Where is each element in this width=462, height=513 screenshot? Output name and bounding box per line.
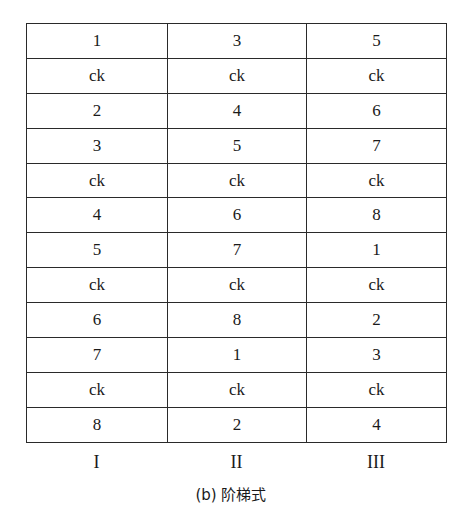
table-cell: 7 [168,233,307,268]
table-row: 246 [27,93,447,128]
table-cell: 1 [27,24,168,59]
table-cell: 4 [27,198,168,233]
figure-caption: (b) 阶梯式 [0,483,462,504]
table-cell: 5 [27,233,168,268]
table-cell: 8 [307,198,447,233]
table-cell: 5 [168,128,307,163]
schedule-table-body: 135ckckck246357ckckck468571ckckck682713c… [27,24,447,443]
table-cell: 7 [307,128,447,163]
schedule-table: 135ckckck246357ckckck468571ckckck682713c… [26,23,447,443]
table-row: 824 [27,407,447,442]
column-label-1: I [26,452,167,473]
table-cell: ck [307,58,447,93]
table-cell: ck [307,268,447,303]
table-row: ckckck [27,268,447,303]
table-cell: ck [27,268,168,303]
table-cell: 4 [307,407,447,442]
table-cell: 5 [307,24,447,59]
table-cell: ck [168,58,307,93]
table-cell: ck [168,268,307,303]
table-cell: 3 [27,128,168,163]
table-cell: 3 [307,338,447,373]
table-cell: 2 [168,407,307,442]
table-cell: ck [27,163,168,198]
column-label-3: III [306,452,446,473]
table-cell: 2 [307,303,447,338]
table-cell: 8 [27,407,168,442]
table-row: ckckck [27,372,447,407]
table-row: 713 [27,338,447,373]
table-row: 682 [27,303,447,338]
table-cell: ck [168,163,307,198]
column-labels: I II III [26,452,446,473]
table-cell: ck [307,163,447,198]
table-cell: ck [27,58,168,93]
table-row: 571 [27,233,447,268]
table-cell: ck [168,372,307,407]
table-cell: 8 [168,303,307,338]
table-cell: 1 [307,233,447,268]
table-cell: ck [27,372,168,407]
table-row: ckckck [27,58,447,93]
table-cell: 3 [168,24,307,59]
table-cell: 7 [27,338,168,373]
table-row: 357 [27,128,447,163]
table-cell: 6 [168,198,307,233]
column-label-2: II [167,452,306,473]
table-cell: 6 [27,303,168,338]
table-row: ckckck [27,163,447,198]
table-cell: 4 [168,93,307,128]
table-cell: 1 [168,338,307,373]
table-row: 135 [27,24,447,59]
table-cell: ck [307,372,447,407]
table-row: 468 [27,198,447,233]
table-cell: 2 [27,93,168,128]
table-cell: 6 [307,93,447,128]
